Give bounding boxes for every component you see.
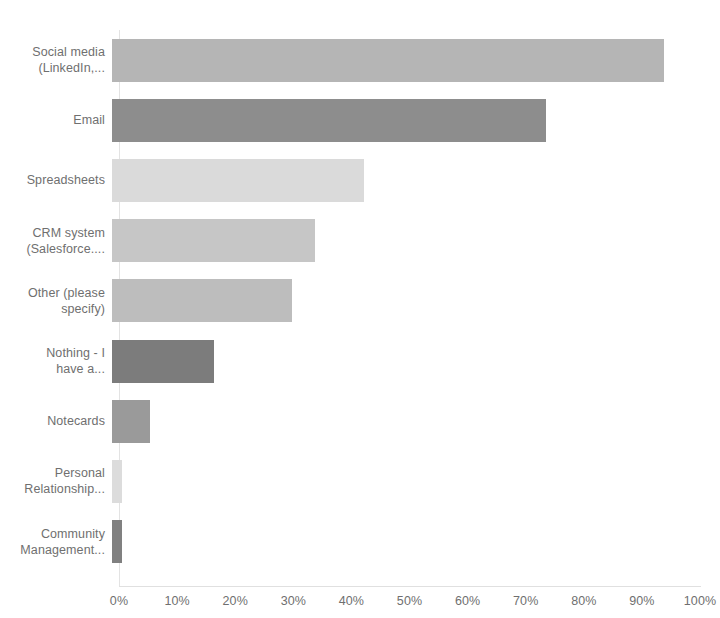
x-tick-label: 10% (164, 592, 189, 610)
horizontal-bar-chart: Social media (LinkedIn,...EmailSpreadshe… (0, 0, 720, 618)
bar-track (112, 271, 693, 331)
bar-row: Community Management... (0, 512, 720, 572)
bar-track (112, 90, 693, 150)
category-label: Email (0, 112, 112, 128)
category-label: Nothing - I have a... (0, 345, 112, 377)
bar-row: Spreadsheets (0, 150, 720, 210)
bar-track (112, 451, 693, 511)
x-tick-label: 40% (339, 592, 364, 610)
category-label: Notecards (0, 413, 112, 429)
category-label: Community Management... (0, 526, 112, 558)
bar-row: Notecards (0, 391, 720, 451)
bar-row: Social media (LinkedIn,... (0, 30, 720, 90)
bar-track (112, 331, 693, 391)
bar[interactable] (112, 400, 150, 443)
bar[interactable] (112, 39, 664, 82)
bar-row: Nothing - I have a... (0, 331, 720, 391)
x-tick-label: 50% (397, 592, 422, 610)
bar-row: CRM system (Salesforce.... (0, 211, 720, 271)
bar-track (112, 512, 693, 572)
bar[interactable] (112, 520, 122, 563)
bar[interactable] (112, 99, 546, 142)
x-axis-line (119, 586, 701, 587)
x-tick-label: 90% (629, 592, 654, 610)
bar[interactable] (112, 460, 122, 503)
x-tick-label: 80% (571, 592, 596, 610)
x-tick-label: 100% (684, 592, 716, 610)
bar-row: Email (0, 90, 720, 150)
bar-track (112, 30, 693, 90)
x-tick-label: 20% (223, 592, 248, 610)
bar[interactable] (112, 279, 292, 322)
bar-row: Other (please specify) (0, 271, 720, 331)
bar-track (112, 391, 693, 451)
x-tick-label: 70% (513, 592, 538, 610)
bar-row: Personal Relationship... (0, 451, 720, 511)
bar-track (112, 150, 693, 210)
bar-rows: Social media (LinkedIn,...EmailSpreadshe… (0, 30, 720, 586)
category-label: Personal Relationship... (0, 465, 112, 497)
category-label: CRM system (Salesforce.... (0, 225, 112, 257)
bar[interactable] (112, 219, 315, 262)
x-tick-label: 30% (281, 592, 306, 610)
x-axis-tick-labels: 0%10%20%30%40%50%60%70%80%90%100% (0, 592, 720, 616)
category-label: Spreadsheets (0, 172, 112, 188)
category-label: Social media (LinkedIn,... (0, 44, 112, 76)
bar[interactable] (112, 159, 364, 202)
bar-track (112, 211, 693, 271)
category-label: Other (please specify) (0, 285, 112, 317)
bar[interactable] (112, 340, 214, 383)
x-tick-label: 0% (110, 592, 128, 610)
x-tick-label: 60% (455, 592, 480, 610)
